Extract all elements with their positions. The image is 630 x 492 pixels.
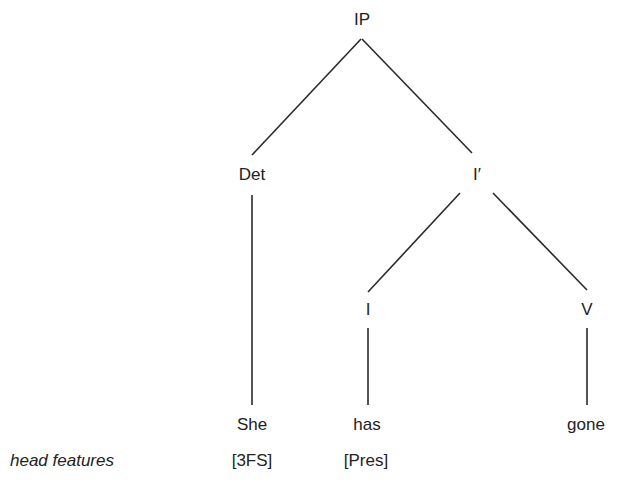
node-ip: IP: [354, 10, 370, 30]
features-label: head features: [10, 451, 114, 471]
node-v: V: [581, 300, 592, 320]
feature-she: [3FS]: [232, 451, 273, 471]
edge-ip-ibar: [362, 39, 472, 153]
word-gone: gone: [567, 415, 605, 435]
feature-has: [Pres]: [344, 451, 388, 471]
node-ibar: I′: [473, 165, 481, 185]
node-det: Det: [239, 165, 265, 185]
edge-ibar-v: [493, 193, 587, 290]
word-she: She: [237, 415, 267, 435]
word-has: has: [353, 415, 380, 435]
tree-edges: [0, 0, 630, 492]
edge-ip-det: [252, 39, 361, 155]
edge-ibar-i: [368, 193, 460, 292]
node-i: I: [366, 300, 371, 320]
